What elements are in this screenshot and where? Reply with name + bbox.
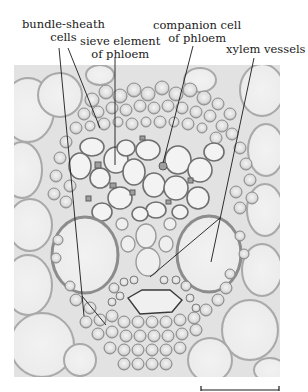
tissue-section [2,64,286,382]
label-xylem-vessels: xylem vessels [226,43,306,56]
label-sieve-element-line2: of phloem [80,48,160,61]
label-sieve-element: sieve element of phloem [80,35,160,61]
scale-bar [201,386,279,391]
label-xylem-line1: xylem vessels [226,43,306,56]
